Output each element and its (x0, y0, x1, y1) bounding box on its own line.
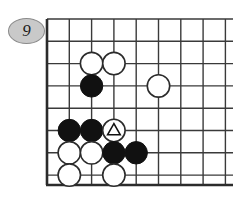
stone-white (103, 164, 125, 186)
stone-black (80, 75, 102, 97)
stone-black (125, 142, 147, 164)
black-stone (80, 119, 102, 141)
stone-layer (58, 52, 170, 186)
stone-white-marked (103, 119, 125, 141)
stone-white (58, 142, 80, 164)
white-stone (103, 52, 125, 74)
stone-white (80, 52, 102, 74)
stone-black (80, 119, 102, 141)
stone-white (80, 142, 102, 164)
black-stone (58, 119, 80, 141)
stone-black (103, 142, 125, 164)
black-stone (125, 142, 147, 164)
black-stone (80, 75, 102, 97)
white-stone (80, 52, 102, 74)
white-stone (58, 142, 80, 164)
stone-white (58, 164, 80, 186)
white-stone (103, 164, 125, 186)
go-board-figure: 9 (0, 0, 233, 200)
black-stone (103, 142, 125, 164)
white-stone (147, 75, 169, 97)
stone-white (147, 75, 169, 97)
white-stone (58, 164, 80, 186)
stone-black (58, 119, 80, 141)
stone-white (103, 52, 125, 74)
move-number-badge: 9 (8, 18, 45, 44)
move-number-label: 9 (22, 22, 31, 40)
white-stone (80, 142, 102, 164)
